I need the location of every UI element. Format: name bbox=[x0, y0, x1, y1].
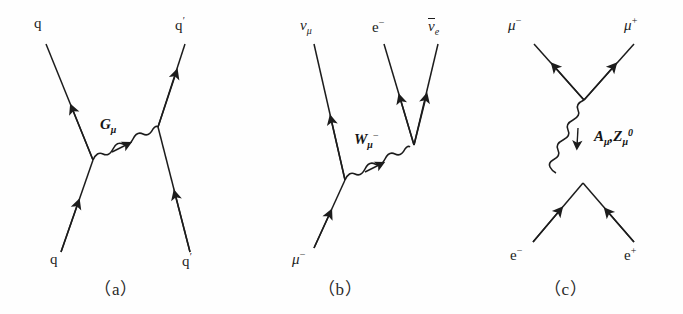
label-incoming-positron: e+ bbox=[624, 246, 637, 263]
leg-arrow-muon-neutrino bbox=[331, 119, 345, 180]
label-electron: e− bbox=[372, 18, 385, 35]
caption-b: （b） bbox=[232, 275, 448, 300]
label-quark-lower-right: q′ bbox=[182, 252, 192, 269]
label-outgoing-muon: μ− bbox=[508, 16, 521, 33]
diagram-c-lines bbox=[448, 0, 683, 314]
leg-arrow-electron-antineutrino bbox=[414, 97, 426, 145]
leg-arrow-lower-right bbox=[175, 194, 190, 252]
diagram-b-lines bbox=[232, 0, 448, 314]
diagram-panel-b: νμ e− νe μ− Wμ− （b） bbox=[232, 0, 448, 314]
label-outgoing-antimuon: μ+ bbox=[624, 16, 637, 33]
feynman-diagram-figure: q q′ q q′ Gμ （a） bbox=[0, 0, 683, 314]
leg-arrow-electron bbox=[400, 98, 414, 145]
leg-arrow-upper-left bbox=[72, 108, 93, 160]
leg-arrow-outgoing-muon bbox=[554, 66, 584, 100]
leg-arrow-outgoing-antimuon bbox=[584, 66, 614, 100]
photon-z-propagator-arrow bbox=[577, 128, 578, 146]
label-incoming-muon: μ− bbox=[292, 250, 305, 267]
caption-c: （c） bbox=[448, 275, 683, 300]
label-muon-neutrino: νμ bbox=[300, 18, 312, 36]
diagram-a-lines bbox=[0, 0, 232, 314]
label-w-boson-propagator: Wμ− bbox=[354, 131, 379, 150]
photon-z-propagator-wave bbox=[549, 100, 584, 173]
leg-arrow-incoming-muon bbox=[314, 213, 330, 248]
label-quark-upper-left: q bbox=[34, 16, 42, 31]
label-incoming-electron: e− bbox=[510, 246, 523, 263]
diagram-panel-a: q q′ q q′ Gμ （a） bbox=[0, 0, 232, 314]
label-quark-upper-right: q′ bbox=[175, 16, 185, 33]
leg-arrow-lower-left bbox=[61, 203, 78, 252]
diagram-panel-c: μ− μ+ e− e+ Aμ,Zμ0 （c） bbox=[448, 0, 683, 314]
label-gluon-propagator: Gμ bbox=[100, 117, 116, 135]
leg-arrow-incoming-electron bbox=[533, 210, 560, 242]
leg-arrow-incoming-positron bbox=[607, 211, 634, 242]
caption-a: （a） bbox=[0, 275, 232, 300]
label-quark-lower-left: q bbox=[50, 252, 58, 267]
label-photon-z-propagator: Aμ,Zμ0 bbox=[594, 128, 633, 147]
w-boson-propagator-wave bbox=[345, 146, 410, 180]
label-electron-antineutrino: νe bbox=[428, 18, 439, 37]
leg-arrow-upper-right bbox=[158, 73, 176, 127]
